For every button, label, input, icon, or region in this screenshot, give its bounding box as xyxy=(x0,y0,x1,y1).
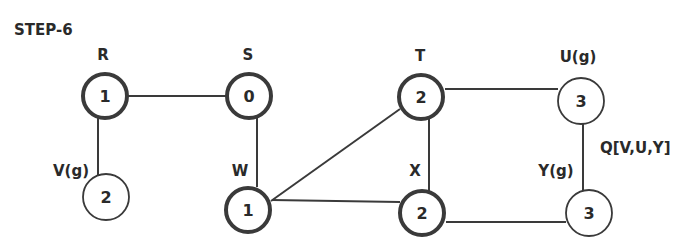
node-s-value: 0 xyxy=(243,87,254,106)
node-x-label: X xyxy=(409,162,421,180)
node-w-value: 1 xyxy=(242,201,253,220)
node-y-label: Y(g) xyxy=(537,162,573,180)
node-y-value: 3 xyxy=(583,204,594,223)
step-title: STEP-6 xyxy=(14,21,73,39)
node-x: 2 X xyxy=(400,162,444,235)
node-t-value: 2 xyxy=(415,88,426,107)
node-x-value: 2 xyxy=(416,204,427,223)
edges xyxy=(98,89,583,222)
node-t: 2 T xyxy=(399,47,443,119)
queue-label: Q[V,U,Y] xyxy=(600,139,671,157)
node-w-label: W xyxy=(232,162,249,180)
node-w: 1 W xyxy=(226,162,270,232)
node-v: 2 V(g) xyxy=(53,162,129,220)
node-u-label: U(g) xyxy=(560,48,597,66)
node-s-label: S xyxy=(243,46,254,64)
node-y: 3 Y(g) xyxy=(537,162,612,236)
node-t-label: T xyxy=(415,47,426,65)
node-r: 1 R xyxy=(83,46,127,118)
node-r-label: R xyxy=(97,46,109,64)
node-u-value: 3 xyxy=(575,92,586,111)
edge-w-x xyxy=(272,200,400,202)
node-u: 3 U(g) xyxy=(558,48,604,124)
edge-w-t xyxy=(271,109,400,201)
node-s: 0 S xyxy=(227,46,271,118)
node-r-value: 1 xyxy=(99,87,110,106)
node-v-label: V(g) xyxy=(53,162,89,180)
bfs-graph-diagram: STEP-6 1 R 0 S 2 T 3 U(g) 2 V(g) 1 xyxy=(0,0,695,243)
node-v-value: 2 xyxy=(100,188,111,207)
